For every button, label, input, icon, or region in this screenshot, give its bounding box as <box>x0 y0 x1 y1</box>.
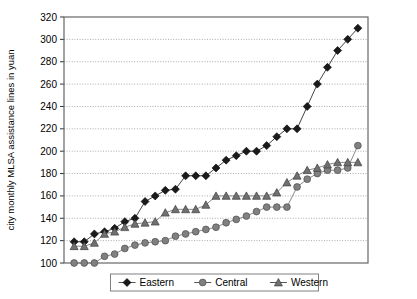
data-point-central <box>253 208 260 215</box>
y-tick-label: 140 <box>40 213 57 224</box>
data-point-central <box>213 224 220 231</box>
data-point-central <box>273 204 280 211</box>
data-point-central <box>111 251 118 258</box>
chart-container: 100120140160180200220240260280300320city… <box>0 0 417 299</box>
line-chart: 100120140160180200220240260280300320city… <box>0 0 417 299</box>
data-point-central <box>199 279 206 286</box>
data-point-central <box>142 239 149 246</box>
data-point-central <box>71 260 78 267</box>
y-tick-label: 320 <box>40 12 57 23</box>
data-point-central <box>202 226 209 233</box>
legend-label: Eastern <box>140 277 174 288</box>
data-point-central <box>182 231 189 238</box>
data-point-central <box>172 233 179 240</box>
data-point-central <box>354 142 361 149</box>
data-point-central <box>334 167 341 174</box>
y-axis-title: city monthly MLSA assistance lines in yu… <box>5 49 16 230</box>
data-point-central <box>243 213 250 220</box>
y-tick-label: 200 <box>40 146 57 157</box>
y-tick-label: 300 <box>40 34 57 45</box>
y-tick-label: 160 <box>40 190 57 201</box>
legend-item-eastern[interactable]: Eastern <box>119 277 174 288</box>
y-tick-label: 180 <box>40 168 57 179</box>
data-point-central <box>192 228 199 235</box>
data-point-central <box>132 242 139 249</box>
y-tick-label: 120 <box>40 235 57 246</box>
legend-label: Central <box>215 277 247 288</box>
data-point-central <box>304 176 311 183</box>
data-point-central <box>81 260 88 267</box>
data-point-central <box>162 237 169 244</box>
y-tick-label: 220 <box>40 123 57 134</box>
data-point-central <box>294 184 301 191</box>
data-point-central <box>223 219 230 226</box>
data-point-central <box>152 238 159 245</box>
y-axis-ticks: 100120140160180200220240260280300320 <box>40 12 64 269</box>
y-tick-label: 260 <box>40 79 57 90</box>
data-point-central <box>91 260 98 267</box>
data-point-central <box>121 245 128 252</box>
data-point-central <box>263 204 270 211</box>
y-tick-label: 100 <box>40 258 57 269</box>
y-tick-label: 240 <box>40 101 57 112</box>
data-point-central <box>284 204 291 211</box>
legend-label: Western <box>291 277 328 288</box>
data-point-central <box>233 216 240 223</box>
data-point-central <box>101 253 108 260</box>
y-tick-label: 280 <box>40 56 57 67</box>
